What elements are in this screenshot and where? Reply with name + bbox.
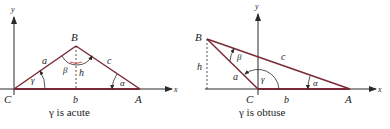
gamma-label: γ xyxy=(261,74,265,84)
alpha-arc xyxy=(112,74,117,89)
side-a-label: a xyxy=(42,55,47,66)
vertex-b-label: B xyxy=(71,31,78,43)
vertex-a-label: A xyxy=(344,93,352,105)
alpha-label: α xyxy=(313,78,318,88)
alpha-label: α xyxy=(120,78,125,88)
beta-arc xyxy=(230,49,234,61)
gamma-arc xyxy=(40,71,45,89)
vertex-b-label: B xyxy=(195,31,202,43)
alpha-arc xyxy=(308,76,310,89)
y-axis-label: y xyxy=(10,5,15,14)
vertex-c-label: C xyxy=(246,93,254,105)
height-label: h xyxy=(197,61,202,72)
side-b-label: b xyxy=(73,94,78,105)
beta-label: β xyxy=(236,52,242,62)
gamma-label: γ xyxy=(31,75,35,85)
left-caption: γ is acute xyxy=(48,106,90,118)
left-figure: x y B C A a b c h γ β α γ is acute xyxy=(0,5,178,118)
side-b-label: b xyxy=(284,94,289,105)
triangle-diagrams: x y B C A a b c h γ β α γ is acute x y xyxy=(0,0,390,129)
side-c-label: c xyxy=(107,55,112,66)
right-caption: γ is obtuse xyxy=(238,106,286,118)
vertex-c-label: C xyxy=(4,93,12,105)
side-c xyxy=(207,39,350,89)
side-c-label: c xyxy=(281,51,286,62)
height-label: h xyxy=(79,67,84,78)
x-axis-label: x xyxy=(377,85,382,94)
beta-label: β xyxy=(62,65,68,75)
vertex-a-label: A xyxy=(134,93,142,105)
x-axis-label: x xyxy=(173,85,178,94)
side-a-label: a xyxy=(233,71,238,82)
y-axis-label: y xyxy=(254,2,259,11)
side-c xyxy=(76,46,140,89)
right-figure: x y B C A a b c h γ β α γ is obtuse xyxy=(195,2,382,118)
